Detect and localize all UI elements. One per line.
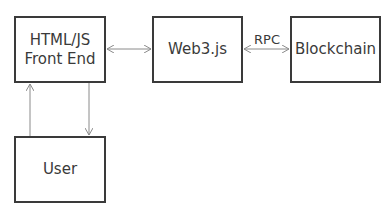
edge-label-rpc: RPC [246,32,288,47]
node-web3: Web3.js [152,16,243,83]
node-blockchain-label: Blockchain [295,40,376,59]
node-user: User [14,136,106,203]
node-web3-label: Web3.js [168,40,227,59]
node-frontend: HTML/JS Front End [14,16,106,83]
node-blockchain: Blockchain [290,16,381,83]
node-frontend-label-line1: HTML/JS [24,31,95,50]
node-user-label: User [43,160,77,179]
node-frontend-label-line2: Front End [24,50,95,69]
